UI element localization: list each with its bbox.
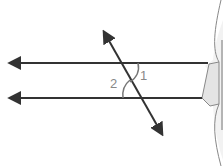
right-edge-shape	[202, 0, 223, 166]
geometry-figure: 1 2	[0, 0, 223, 166]
angle-2-label: 2	[110, 76, 117, 91]
angle-2-arc	[123, 80, 130, 98]
diagram-canvas: 1 2	[0, 0, 223, 166]
angle-1-label: 1	[140, 68, 147, 83]
